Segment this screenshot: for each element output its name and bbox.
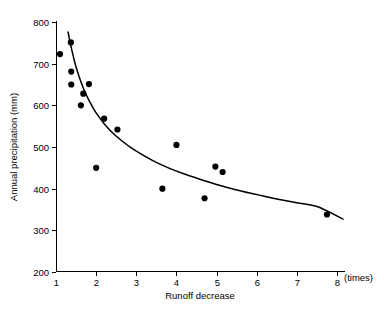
x-tick-label: 1 [54,277,59,288]
data-point [68,39,74,45]
x-tick-label: 4 [174,277,179,288]
y-tick-label: 300 [33,225,49,236]
data-point [78,102,84,108]
y-tick-label: 200 [33,267,49,278]
data-point [173,142,179,148]
data-point [219,169,225,175]
x-tick-label: 2 [94,277,99,288]
y-tick-label: 500 [33,142,49,153]
scatter-plot: 200300400500600700800 12345678 (times) R… [0,0,384,318]
x-axis-title: Runoff decrease [165,290,235,301]
data-point [159,186,165,192]
data-point [68,81,74,87]
data-point [57,51,63,57]
y-tick-label: 400 [33,184,49,195]
data-point [324,211,330,217]
x-tick-label: 8 [335,277,340,288]
data-point [114,126,120,132]
y-tick-label: 600 [33,100,49,111]
data-point [86,81,92,87]
data-point [101,116,107,122]
x-tick-label: 7 [295,277,300,288]
x-tick-label: 6 [255,277,260,288]
chart-figure: 200300400500600700800 12345678 (times) R… [0,0,384,318]
data-point [68,68,74,74]
x-tick-label: 5 [215,277,220,288]
y-tick-label: 700 [33,59,49,70]
y-tick-label: 800 [33,17,49,28]
x-axis-unit-label: (times) [344,272,373,283]
y-axis-title: Annual precipitation (mm) [8,93,19,201]
data-point [201,195,207,201]
x-tick-label: 3 [134,277,139,288]
data-point [93,165,99,171]
plot-background [0,0,384,318]
data-point [212,163,218,169]
data-point [80,91,86,97]
